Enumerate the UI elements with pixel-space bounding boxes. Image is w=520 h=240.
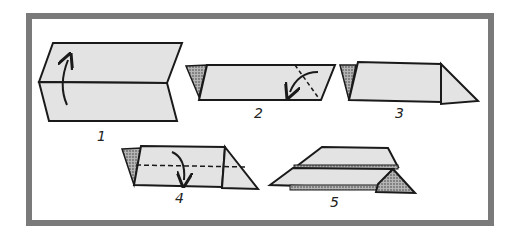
step-2-label: 2: [254, 105, 263, 121]
folding-diagram: 1 2 3 4 5: [0, 0, 520, 240]
step-1-label: 1: [97, 128, 106, 144]
step-5-label: 5: [330, 194, 339, 210]
step-3-label: 3: [395, 105, 404, 121]
step-4-label: 4: [175, 190, 184, 206]
